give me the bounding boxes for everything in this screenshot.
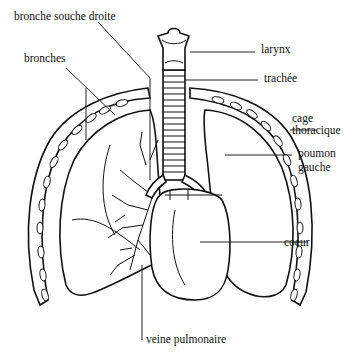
larynx: [158, 29, 189, 71]
heart: [150, 189, 230, 300]
right-lung: [60, 110, 162, 295]
label-poumon-gauche-line1: poumon: [298, 147, 336, 159]
label-poumon-gauche-line2: gauche: [298, 161, 331, 173]
label-cage-thoracique-line2: thoracique: [292, 124, 341, 136]
label-coeur: coeur: [284, 236, 310, 248]
label-bronches: bronches: [24, 52, 66, 64]
label-bronche-souche-droite: bronche souche droite: [14, 10, 116, 22]
label-larynx: larynx: [261, 43, 290, 55]
trachea: [163, 70, 185, 180]
label-cage-thoracique-line1: cage: [292, 112, 313, 124]
label-veine-pulmonaire: veine pulmonaire: [146, 333, 226, 345]
label-trachee: trachée: [264, 72, 297, 84]
